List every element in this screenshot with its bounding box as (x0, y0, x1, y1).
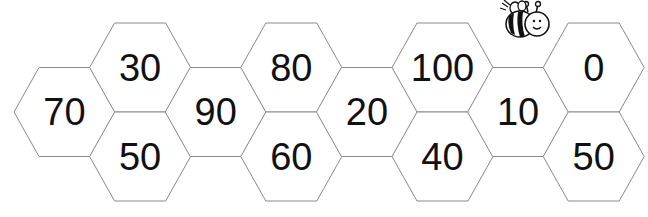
hex-number: 50 (119, 136, 161, 178)
hex-number: 70 (43, 91, 85, 133)
hex-number: 100 (411, 47, 474, 89)
hex-number: 50 (573, 136, 615, 178)
hex-number: 90 (195, 91, 237, 133)
hex-number: 40 (421, 136, 463, 178)
hex-number: 10 (497, 91, 539, 133)
hex-number: 30 (119, 47, 161, 89)
hex-number: 20 (346, 91, 388, 133)
hex-number: 0 (583, 47, 604, 89)
hex-number: 60 (270, 136, 312, 178)
honeycomb-board: 703050908060201004010050 (0, 0, 648, 217)
hex-number: 80 (270, 47, 312, 89)
bee-icon (500, 0, 549, 37)
hex-grid: 703050908060201004010050 (14, 23, 644, 201)
